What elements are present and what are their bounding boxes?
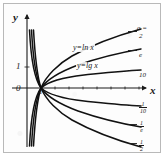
fraction-numerator: 1: [139, 101, 147, 108]
legend-header-a-equals: a =: [137, 25, 147, 32]
base-label-one-over-e: 1 e: [139, 117, 144, 133]
y-tick-label-1: 1: [16, 62, 21, 71]
x-tick-label-1: 1: [39, 89, 43, 96]
curve-label-ln: y=ln x: [72, 44, 95, 52]
curve-label-lg: y=lg x: [76, 62, 99, 70]
fraction-denominator: 10: [139, 108, 147, 114]
logarithm-curves-figure: y x 0 1 1 y=ln x y=lg x a = 2 e 10 1 10 …: [0, 0, 166, 157]
base-label-one-tenth: 1 10: [139, 98, 147, 114]
x-axis-label: x: [150, 85, 156, 96]
origin-label: 0: [16, 84, 21, 93]
base-label-one-half: 1 2: [139, 136, 144, 152]
fraction-denominator: e: [139, 127, 144, 133]
base-label-2: 2: [139, 33, 143, 40]
base-label-10: 10: [139, 72, 146, 79]
y-axis-label: y: [13, 12, 18, 23]
fraction-denominator: 2: [139, 146, 144, 152]
fraction-numerator: 1: [139, 120, 144, 127]
base-label-e: e: [139, 52, 142, 59]
fraction-numerator: 1: [139, 139, 144, 146]
